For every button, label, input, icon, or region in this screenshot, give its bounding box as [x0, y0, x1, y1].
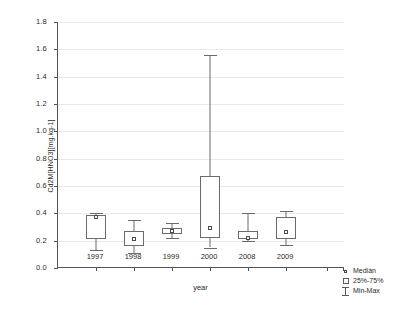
y-tick-label: 0.0 — [0, 263, 47, 272]
x-tick-mark — [327, 267, 328, 271]
y-gridline — [58, 49, 344, 50]
y-tick-mark — [54, 22, 58, 23]
whisker-upper — [134, 220, 135, 231]
median-point-icon — [340, 267, 351, 276]
y-tick-mark — [54, 241, 58, 242]
x-tick-label: 1999 — [163, 252, 180, 261]
y-gridline — [58, 131, 344, 132]
y-tick-mark — [54, 77, 58, 78]
x-tick-mark — [248, 267, 249, 271]
boxplot-chart: Cd2M[HNO3][mg.kg-1] year Medián25%-75%Mi… — [0, 0, 407, 311]
y-axis-title-text: Cd2M[HNO3][mg.kg-1] — [47, 119, 54, 192]
y-gridline — [58, 22, 344, 23]
x-tick-label: 1998 — [125, 252, 142, 261]
whisker-cap-max — [204, 55, 217, 56]
y-tick-label: 0.2 — [0, 236, 47, 245]
median-marker — [170, 229, 174, 233]
x-tick-mark — [96, 267, 97, 271]
x-tick-label: 1997 — [87, 252, 104, 261]
whisker-upper — [286, 211, 287, 218]
whisker-upper — [210, 55, 211, 177]
y-tick-label: 1.4 — [0, 72, 47, 81]
y-tick-label: 0.4 — [0, 208, 47, 217]
y-tick-mark — [54, 131, 58, 132]
legend-label: Medián — [353, 266, 376, 276]
whisker-cap-min — [166, 238, 179, 239]
median-marker — [284, 230, 288, 234]
whisker-lower — [96, 239, 97, 250]
median-marker — [132, 237, 136, 241]
median-marker — [94, 215, 98, 219]
y-tick-mark — [54, 159, 58, 160]
whisker-cap-min — [280, 245, 293, 246]
y-tick-mark — [54, 186, 58, 187]
y-tick-label: 1.6 — [0, 44, 47, 53]
x-tick-label: 2000 — [201, 252, 218, 261]
y-tick-mark — [54, 49, 58, 50]
y-axis-title: Cd2M[HNO3][mg.kg-1] — [47, 119, 54, 192]
y-tick-label: 1.0 — [0, 126, 47, 135]
box-range-icon — [340, 277, 351, 286]
x-tick-mark — [172, 267, 173, 271]
y-gridline — [58, 104, 344, 105]
x-axis-title-text: year — [193, 283, 208, 292]
y-tick-label: 1.8 — [0, 17, 47, 26]
y-tick-mark — [54, 213, 58, 214]
whisker-cap-max — [242, 213, 255, 214]
box-iqr — [276, 217, 296, 239]
whisker-cap-min — [204, 248, 217, 249]
median-marker — [208, 226, 212, 230]
y-gridline — [58, 241, 344, 242]
y-tick-label: 1.2 — [0, 99, 47, 108]
whisker-upper — [248, 213, 249, 231]
whisker-cap-min — [242, 241, 255, 242]
y-tick-mark — [54, 268, 58, 269]
x-tick-mark — [286, 267, 287, 271]
y-tick-label: 0.6 — [0, 181, 47, 190]
y-tick-mark — [54, 104, 58, 105]
x-tick-mark — [210, 267, 211, 271]
whisker-cap-max — [280, 211, 293, 212]
plot-area — [57, 22, 344, 268]
whisker-icon — [340, 287, 351, 296]
legend-row: Min-Max — [340, 286, 383, 296]
legend-row: Medián — [340, 266, 383, 276]
whisker-cap-max — [166, 223, 179, 224]
y-tick-label: 0.8 — [0, 154, 47, 163]
chart-legend: Medián25%-75%Min-Max — [340, 266, 383, 296]
y-gridline — [58, 159, 344, 160]
x-tick-mark — [134, 267, 135, 271]
x-axis-title: year — [57, 283, 344, 292]
legend-label: 25%-75% — [353, 276, 383, 286]
whisker-cap-max — [128, 220, 141, 221]
y-gridline — [58, 77, 344, 78]
legend-row: 25%-75% — [340, 276, 383, 286]
x-tick-label: 2009 — [277, 252, 294, 261]
x-tick-label: 2008 — [239, 252, 256, 261]
whisker-lower — [210, 238, 211, 248]
legend-label: Min-Max — [353, 286, 380, 296]
median-marker — [246, 236, 250, 240]
